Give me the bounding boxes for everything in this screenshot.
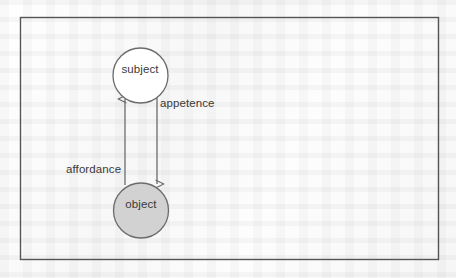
object-node[interactable]: [114, 183, 169, 238]
subject-node[interactable]: [113, 48, 168, 103]
figure-page: subject object appetence affordance: [0, 0, 456, 278]
appetence-edge-label: appetence: [160, 97, 215, 109]
figure-frame: [21, 18, 439, 260]
subject-node-label: subject: [112, 63, 168, 75]
affordance-edge-label: affordance: [66, 163, 121, 175]
diagram-canvas: [0, 0, 456, 278]
object-node-label: object: [113, 198, 169, 210]
